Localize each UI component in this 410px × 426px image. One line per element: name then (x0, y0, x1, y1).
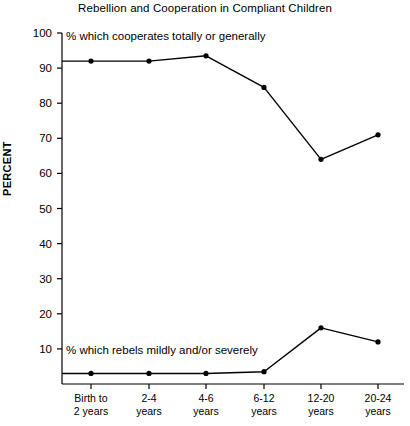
data-point-marker (375, 339, 380, 344)
data-point-marker (261, 85, 266, 90)
data-point-marker (146, 371, 151, 376)
data-point-marker (203, 53, 208, 58)
data-point-marker (88, 58, 93, 63)
data-point-marker (203, 371, 208, 376)
data-point-marker (318, 157, 323, 162)
data-point-marker (318, 325, 323, 330)
series-line-rebels (62, 328, 378, 374)
data-point-marker (261, 369, 266, 374)
series-line-cooperates (62, 56, 378, 160)
data-point-marker (375, 132, 380, 137)
plot-area (0, 0, 410, 426)
data-point-marker (88, 371, 93, 376)
data-point-marker (146, 58, 151, 63)
chart-container: Rebellion and Cooperation in Compliant C… (0, 0, 410, 426)
